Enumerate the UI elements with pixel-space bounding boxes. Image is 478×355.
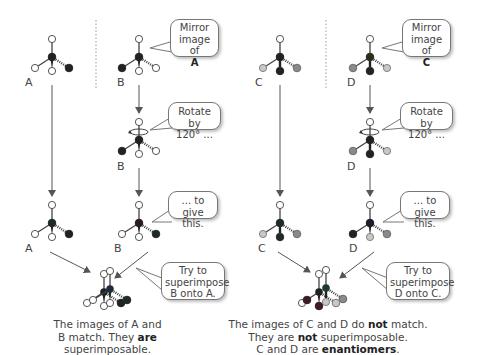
bubble-tail-superimpose-D bbox=[362, 268, 388, 290]
caption-superimposable: The images of A and B match. They are su… bbox=[40, 318, 175, 355]
bubble-rotate-B: Rotate by 120° ... bbox=[168, 102, 221, 130]
label-B-top: B bbox=[117, 76, 125, 89]
molecule-B-rotating bbox=[118, 118, 159, 157]
molecule-C-bottom bbox=[259, 201, 300, 240]
arrow-A-to-superimpose bbox=[50, 252, 90, 272]
label-D-top: D bbox=[347, 76, 355, 89]
bubble-mirror-image-A: Mirror image of A bbox=[170, 19, 219, 57]
arrow-C-to-superimpose bbox=[278, 252, 310, 272]
bubble-superimpose-B-onto-A: Try to superimpose B onto A. bbox=[161, 262, 225, 300]
bubble-to-give-B: ... to give this. bbox=[168, 191, 218, 219]
molecule-A-bottom bbox=[31, 201, 72, 240]
bubble-tail-mirror-A bbox=[150, 42, 172, 52]
molecule-C-top bbox=[259, 35, 300, 74]
bubble-mirror-image-C: Mirror image of C bbox=[402, 19, 451, 57]
bubble-rotate-D: Rotate by 120° ... bbox=[400, 102, 453, 130]
molecule-B-top bbox=[118, 35, 159, 74]
label-A-bottom: A bbox=[25, 242, 33, 255]
molecule-D-top bbox=[349, 35, 390, 74]
molecule-A-top bbox=[31, 35, 72, 74]
molecule-D-rotating bbox=[349, 118, 390, 157]
bubble-to-give-D: ... to give this. bbox=[400, 191, 450, 219]
bubble-tail-mirror-C bbox=[382, 42, 404, 52]
bubble-superimpose-D-onto-C: Try to superimpose D onto C. bbox=[386, 262, 450, 300]
label-B-bottom: B bbox=[114, 242, 122, 255]
label-B-mid: B bbox=[117, 160, 125, 173]
caption-enantiomers: The images of C and D do not match. They… bbox=[228, 318, 428, 355]
label-C-top: C bbox=[255, 76, 263, 89]
molecule-CD-not-superimposed bbox=[298, 266, 346, 309]
label-D-bottom: D bbox=[349, 242, 357, 255]
label-A-top: A bbox=[25, 76, 33, 89]
label-D-mid: D bbox=[347, 160, 355, 173]
label-C-bottom: C bbox=[258, 242, 266, 255]
molecule-AB-superimposed bbox=[83, 267, 130, 309]
bubble-tail-superimpose-B bbox=[136, 268, 162, 290]
